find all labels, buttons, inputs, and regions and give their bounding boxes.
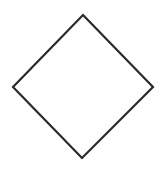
diagram-canvas (0, 0, 168, 170)
diamond-shape (13, 15, 153, 158)
